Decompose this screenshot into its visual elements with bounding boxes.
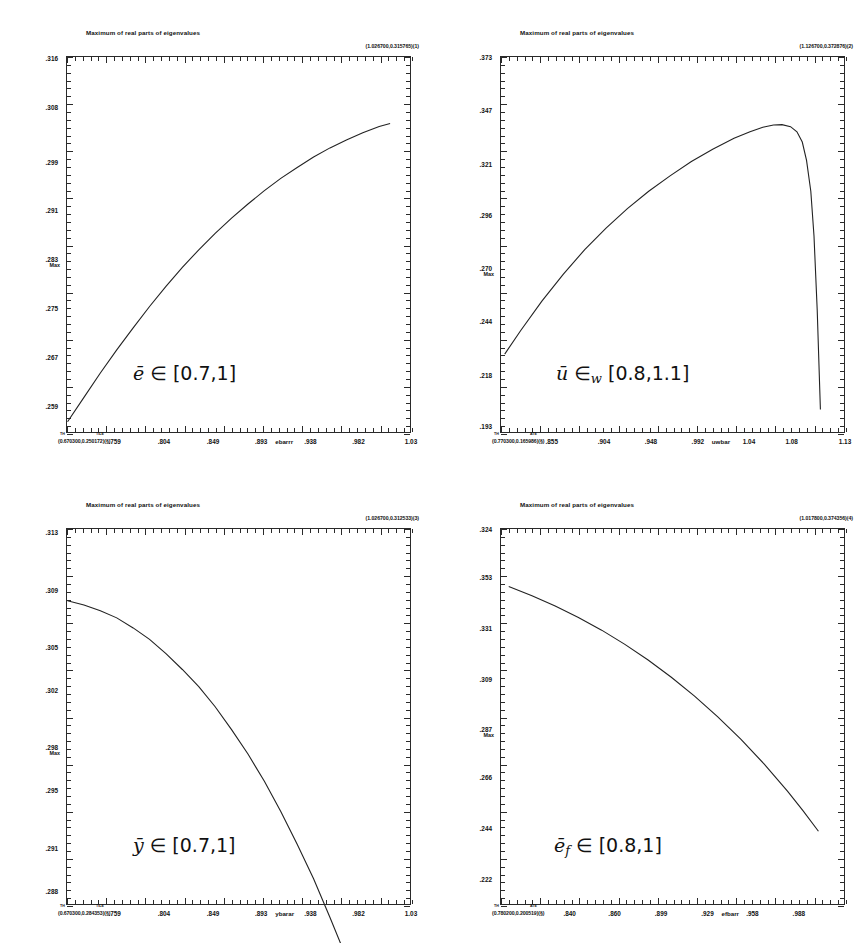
axis-tick [404,434,410,435]
y-tick-label: .288 [46,887,58,894]
x-axis-title: ebarrr [275,438,293,445]
x-axis-labels: TH TILE (0.670300,0.250172)(§) .759.804.… [0,436,433,458]
annotation-range: ∈ [0.7,1] [144,834,236,856]
y-axis-labels: .324.353.331.309.287.266.244.222Max [434,528,498,905]
x-axis-title: ybarar [275,910,294,917]
x-tick-label: .759 [108,910,120,917]
annotation-variable: ȳ [133,834,144,856]
x-tick-label: .860 [608,910,620,917]
plot-area [66,528,411,905]
origin-superscript-right: TILE [96,432,104,436]
data-curve [501,529,846,906]
y-tick-label: .291 [46,844,58,851]
x-tick-label: .958 [746,910,758,917]
y-tick-label: .331 [480,624,492,631]
y-tick-label: .308 [46,103,58,110]
y-axis-title: Max [50,262,61,268]
axis-tick [501,434,507,435]
x-tick-label: .759 [108,438,120,445]
origin-coordinate-label: (0.780200,0.200519)(§) [492,910,544,916]
y-tick-label: .373 [480,54,492,61]
chart-title: Maximum of real parts of eigenvalues [520,501,634,508]
chart-panel-efbar: Maximum of real parts of eigenvalues (1.… [434,472,867,943]
y-tick-label: .347 [480,107,492,114]
corner-coordinate-label: (1.026700,0.315765)(1) [366,43,419,49]
annotation-range: ∈ [0.8,1] [570,834,662,856]
y-tick-label: .302 [46,686,58,693]
axis-tick [501,906,507,907]
y-axis-title: Max [484,271,495,277]
y-tick-label: .193 [480,422,492,429]
x-tick-label: 1.08 [785,438,797,445]
x-tick-label: .988 [793,910,805,917]
y-tick-label: .316 [46,54,58,61]
x-tick-label: .899 [655,910,667,917]
x-axis-labels: TH TILE (0.670300,0.284353)(§) .759.804.… [0,908,433,930]
y-axis-title: Max [484,732,495,738]
x-tick-label: .929 [701,910,713,917]
origin-superscript-right: ATE [530,904,537,908]
annotation-subscript: w [591,371,602,386]
annotation-range: ∈ [0.7,1] [144,362,236,384]
origin-coordinate-label: (0.670300,0.284353)(§) [58,910,110,916]
x-tick-label: .938 [304,910,316,917]
corner-coordinate-label: (1.126700,0.372876)(2) [800,43,853,49]
origin-coordinate-label: (0.770300,0.165986)(§) [492,438,544,444]
x-tick-label: .982 [352,910,364,917]
plot-area [66,56,411,433]
chart-panel-ebar: Maximum of real parts of eigenvalues (1.… [0,0,433,471]
x-tick-label: .992 [692,438,704,445]
y-tick-label: .222 [480,875,492,882]
data-curve [67,57,412,434]
origin-superscript-right: ATE [530,432,537,436]
origin-superscript-right: TILE [96,904,104,908]
x-axis-title: efbarr [721,910,739,917]
axis-tick [412,900,413,904]
x-tick-label: .982 [352,438,364,445]
axis-tick [412,529,413,533]
y-tick-label: .296 [480,211,492,218]
x-tick-label: .840 [563,910,575,917]
x-axis-labels: TH ATE (0.780200,0.200519)(§) .840.860.8… [434,908,867,930]
chart-panel-uwbar: Maximum of real parts of eigenvalues (1.… [434,0,867,471]
y-tick-label: .291 [46,207,58,214]
annotation-range: [0.8,1.1] [602,362,689,384]
x-tick-label: .904 [598,438,610,445]
x-tick-label: .849 [207,438,219,445]
y-tick-label: .275 [46,304,58,311]
y-tick-label: .299 [46,158,58,165]
y-tick-label: .259 [46,402,58,409]
axis-tick [404,906,410,907]
chart-panel-ybar: Maximum of real parts of eigenvalues (1.… [0,472,433,943]
y-tick-label: .266 [480,774,492,781]
annotation-variable: ē [133,362,144,384]
corner-coordinate-label: (1.017800,0.374356)(4) [800,515,853,521]
x-tick-label: 1.03 [405,910,417,917]
y-axis-labels: .373.347.321.296.270.244.218.193Max [434,56,498,433]
range-annotation: ȳ ∈ [0.7,1] [133,834,236,856]
axis-tick [67,434,73,435]
annotation-variable: ū [556,362,568,384]
chart-title: Maximum of real parts of eigenvalues [520,29,634,36]
origin-superscript-left: TH [60,432,65,436]
x-axis-title: uwbar [712,438,730,445]
axis-tick [846,57,847,61]
x-tick-label: .893 [255,438,267,445]
x-tick-label: .804 [158,910,170,917]
y-tick-label: .244 [480,318,492,325]
chart-title: Maximum of real parts of eigenvalues [86,501,200,508]
y-tick-label: .295 [46,787,58,794]
chart-grid: Maximum of real parts of eigenvalues (1.… [0,0,867,943]
axis-tick [838,434,844,435]
range-annotation: ū ∈w [0.8,1.1] [556,362,689,386]
y-tick-label: .267 [46,353,58,360]
axis-tick [412,57,413,61]
y-axis-labels: .313.309.305.302.298.295.291.288Max [0,528,64,905]
axis-tick [846,428,847,432]
axis-tick [846,900,847,904]
x-axis-labels: TH ATE (0.770300,0.165986)(§) .855.904.9… [434,436,867,458]
x-tick-label: .804 [158,438,170,445]
x-tick-label: .855 [545,438,557,445]
y-tick-label: .321 [480,160,492,167]
y-tick-label: .324 [480,526,492,533]
